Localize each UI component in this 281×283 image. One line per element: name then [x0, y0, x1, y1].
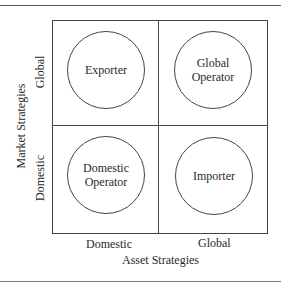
cell-global-operator: Global Operator [174, 31, 252, 109]
y-axis-label-global: Global [33, 56, 48, 89]
bottom-rule [0, 281, 281, 282]
cell-label: Domestic Operator [83, 161, 129, 189]
x-axis-label-global: Global [198, 236, 231, 251]
cell-label: Global Operator [192, 56, 235, 84]
x-axis-label-domestic: Domestic [86, 237, 132, 252]
horizontal-divider [52, 125, 268, 126]
y-axis-title: Market Strategies [14, 84, 29, 169]
cell-label: Exporter [85, 63, 127, 77]
x-axis-title: Asset Strategies [122, 253, 199, 268]
cell-exporter: Exporter [67, 31, 145, 109]
vertical-divider [158, 20, 159, 234]
cell-domestic-operator: Domestic Operator [67, 136, 145, 214]
top-rule [0, 5, 281, 6]
y-axis-label-domestic: Domestic [33, 155, 48, 201]
cell-label: Importer [193, 169, 235, 183]
cell-importer: Importer [175, 137, 253, 215]
